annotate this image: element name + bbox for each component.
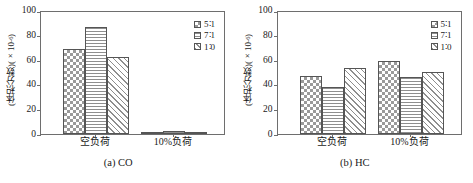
bar-co-empty-7to1 bbox=[85, 27, 107, 134]
y-axis-label-exponent: -6 bbox=[244, 37, 251, 42]
y-tick-mark-0 bbox=[274, 135, 278, 136]
panel-caption-co: (a) CO bbox=[0, 158, 237, 169]
legend-label-5to1: 5∶1 bbox=[441, 19, 452, 29]
x-tick-label-10pct-load: 10%负荷 bbox=[390, 137, 428, 147]
y-axis-label-exponent: -6 bbox=[8, 37, 15, 42]
y-tick-20: 20 bbox=[263, 105, 273, 115]
panel-caption-hc: (b) HC bbox=[237, 158, 473, 169]
legend-item-7to1-co: 7∶1 bbox=[194, 30, 215, 40]
y-axis-label-text: (体积分数)(×10 bbox=[7, 42, 16, 106]
legend-item-5to1-co: 5∶1 bbox=[194, 19, 215, 29]
y-tick-mark-0 bbox=[37, 135, 41, 136]
legend-swatch-icon-5to1 bbox=[431, 21, 438, 28]
legend-hc: 5∶1 7∶1 1∶0 bbox=[428, 17, 455, 54]
legend-swatch-icon-7to1 bbox=[431, 32, 438, 39]
x-tick-label-empty-load: 空负荷 bbox=[80, 137, 110, 147]
bar-group-empty-load-hc bbox=[298, 12, 368, 134]
figure-container: (体积分数)(×10-6) 0 20 40 60 80 100 bbox=[0, 0, 473, 183]
legend-swatch-icon-7to1 bbox=[194, 32, 201, 39]
y-tick-80: 80 bbox=[27, 31, 37, 41]
plot-area-co: 5∶1 7∶1 1∶0 bbox=[40, 11, 225, 135]
x-tick-label-empty-load: 空负荷 bbox=[317, 137, 347, 147]
legend-swatch-icon-1to0 bbox=[194, 43, 201, 50]
y-tick-100: 100 bbox=[258, 6, 272, 16]
y-tick-40: 40 bbox=[27, 81, 37, 91]
chart-panel-co: (体积分数)(×10-6) 0 20 40 60 80 100 bbox=[0, 0, 237, 183]
x-axis-ticks-hc: 空负荷 10%负荷 bbox=[277, 137, 462, 153]
y-axis-label-tail: ) bbox=[243, 34, 252, 37]
bar-hc-10pct-1to0 bbox=[422, 72, 444, 134]
y-tick-20: 20 bbox=[27, 105, 37, 115]
chart-panel-hc: (体积分数)(×10-6) 0 20 40 60 80 100 bbox=[237, 0, 473, 183]
y-tick-100: 100 bbox=[22, 6, 36, 16]
y-tick-0: 0 bbox=[268, 130, 273, 140]
bar-co-10pct-5to1 bbox=[141, 132, 163, 134]
y-tick-40: 40 bbox=[263, 81, 273, 91]
bar-co-10pct-1to0 bbox=[185, 132, 207, 134]
plot-area-hc: 5∶1 7∶1 1∶0 bbox=[277, 11, 462, 135]
y-tick-60: 60 bbox=[27, 56, 37, 66]
legend-item-7to1-hc: 7∶1 bbox=[431, 30, 452, 40]
y-tick-60: 60 bbox=[263, 56, 273, 66]
bar-hc-empty-7to1 bbox=[322, 87, 344, 134]
x-tick-label-10pct-load: 10%负荷 bbox=[154, 137, 192, 147]
legend-label-1to0: 1∶0 bbox=[204, 42, 215, 52]
y-axis-ticks-hc: 0 20 40 60 80 100 bbox=[253, 11, 275, 135]
bar-hc-10pct-7to1 bbox=[400, 77, 422, 134]
bar-co-10pct-7to1 bbox=[163, 131, 185, 134]
x-axis-ticks-co: 空负荷 10%负荷 bbox=[40, 137, 225, 153]
legend-item-5to1-hc: 5∶1 bbox=[431, 19, 452, 29]
bar-hc-10pct-5to1 bbox=[378, 61, 400, 134]
legend-label-1to0: 1∶0 bbox=[441, 42, 452, 52]
legend-label-7to1: 7∶1 bbox=[441, 30, 452, 40]
bar-group-empty-load-co bbox=[61, 12, 131, 134]
y-axis-ticks-co: 0 20 40 60 80 100 bbox=[16, 11, 38, 135]
bar-co-empty-1to0 bbox=[107, 57, 129, 134]
y-tick-80: 80 bbox=[263, 31, 273, 41]
bar-co-empty-5to1 bbox=[63, 49, 85, 135]
y-axis-label-text: (体积分数)(×10 bbox=[243, 42, 252, 106]
legend-item-1to0-hc: 1∶0 bbox=[431, 42, 452, 52]
legend-label-7to1: 7∶1 bbox=[204, 30, 215, 40]
y-tick-0: 0 bbox=[31, 130, 36, 140]
y-axis-label-tail: ) bbox=[7, 34, 16, 37]
legend-swatch-icon-1to0 bbox=[431, 43, 438, 50]
legend-co: 5∶1 7∶1 1∶0 bbox=[191, 17, 218, 54]
bar-hc-empty-5to1 bbox=[300, 76, 322, 134]
legend-label-5to1: 5∶1 bbox=[204, 19, 215, 29]
legend-item-1to0-co: 1∶0 bbox=[194, 42, 215, 52]
legend-swatch-icon-5to1 bbox=[194, 21, 201, 28]
bar-hc-empty-1to0 bbox=[344, 68, 366, 134]
